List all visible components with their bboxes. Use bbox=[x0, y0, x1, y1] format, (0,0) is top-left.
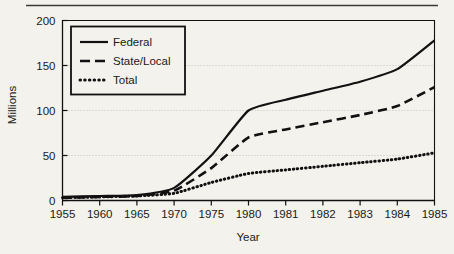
x-tick-label: 1980 bbox=[236, 208, 262, 220]
x-tick-label: 1984 bbox=[385, 208, 411, 220]
x-axis: 1955196019651970197519801981198219831984… bbox=[50, 201, 448, 220]
line-chart: 050100150200 195519601965197019751980198… bbox=[0, 0, 454, 254]
x-tick-label: 1985 bbox=[422, 208, 448, 220]
chart-figure: 050100150200 195519601965197019751980198… bbox=[0, 0, 454, 254]
x-tick-label: 1965 bbox=[124, 208, 150, 220]
legend-label: Total bbox=[113, 74, 137, 86]
x-axis-title: Year bbox=[236, 231, 259, 243]
y-tick-label: 50 bbox=[43, 150, 56, 162]
y-tick-label: 200 bbox=[36, 15, 55, 27]
chart-legend: FederalState/LocalTotal bbox=[71, 27, 185, 95]
y-tick-label: 150 bbox=[36, 60, 55, 72]
legend-label: State/Local bbox=[113, 55, 171, 67]
x-tick-label: 1955 bbox=[50, 208, 76, 220]
x-tick-label: 1970 bbox=[161, 208, 187, 220]
x-tick-label: 1960 bbox=[87, 208, 113, 220]
y-tick-label: 0 bbox=[49, 195, 55, 207]
x-tick-label: 1975 bbox=[199, 208, 225, 220]
x-tick-label: 1981 bbox=[273, 208, 299, 220]
x-tick-label: 1982 bbox=[310, 208, 336, 220]
legend-label: Federal bbox=[113, 36, 152, 48]
series-line-total bbox=[63, 153, 435, 198]
y-tick-label: 100 bbox=[36, 105, 55, 117]
x-tick-label: 1983 bbox=[347, 208, 373, 220]
series-line-state-local bbox=[63, 87, 435, 198]
y-axis-title: Millions bbox=[6, 86, 18, 125]
